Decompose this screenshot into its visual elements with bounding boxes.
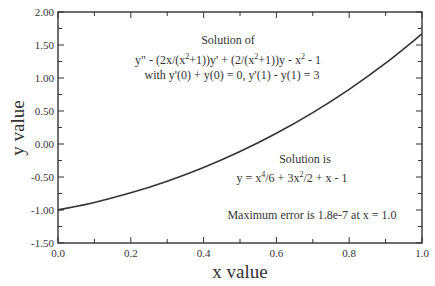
y-tick-label: -1.00: [31, 204, 54, 216]
sol-part: /2 + x - 1: [303, 171, 347, 185]
annotation-problem-title: Solution of: [201, 33, 255, 47]
annotation-error-note: Maximum error is 1.8e-7 at x = 1.0: [227, 208, 396, 222]
y-tick-label: -1.50: [31, 237, 54, 249]
x-axis-title: x value: [212, 261, 267, 282]
x-tick-label: 1.0: [415, 247, 429, 259]
eq-part: +1))y' + (2/(x: [189, 53, 254, 67]
y-tick-label: 0.00: [35, 138, 55, 150]
x-tick-labels: 0.00.20.40.60.81.0: [51, 247, 429, 259]
y-tick-label: 0.50: [35, 105, 55, 117]
eq-part: y" - (2x/(x: [135, 53, 185, 67]
y-axis-title: y value: [7, 100, 28, 155]
eq-part: +1))y - x: [258, 53, 301, 67]
sol-part: /6 + 3x: [265, 171, 299, 185]
annotation-solution-formula: y = x4/6 + 3x2/2 + x - 1: [237, 170, 348, 185]
sol-part: y = x: [237, 171, 262, 185]
line-chart: 0.00.20.40.60.81.0 -1.50-1.00-0.500.000.…: [0, 0, 435, 286]
y-tick-label: 1.50: [35, 39, 55, 51]
y-tick-label: -0.50: [31, 171, 54, 183]
x-tick-label: 0.8: [342, 247, 356, 259]
eq-part: - 1: [305, 53, 321, 67]
annotation-equation: y" - (2x/(x2+1))y' + (2/(x2+1))y - x2 - …: [135, 52, 321, 67]
annotation-boundary-conditions: with y'(0) + y(0) = 0, y'(1) - y(1) = 3: [145, 68, 320, 82]
x-tick-label: 0.4: [197, 247, 211, 259]
x-tick-label: 0.2: [124, 247, 138, 259]
x-tick-label: 0.6: [270, 247, 284, 259]
y-tick-label: 1.00: [35, 72, 55, 84]
y-tick-labels: -1.50-1.00-0.500.000.501.001.502.00: [31, 6, 54, 249]
y-tick-label: 2.00: [35, 6, 55, 18]
annotation-solution-title: Solution is: [279, 152, 331, 166]
